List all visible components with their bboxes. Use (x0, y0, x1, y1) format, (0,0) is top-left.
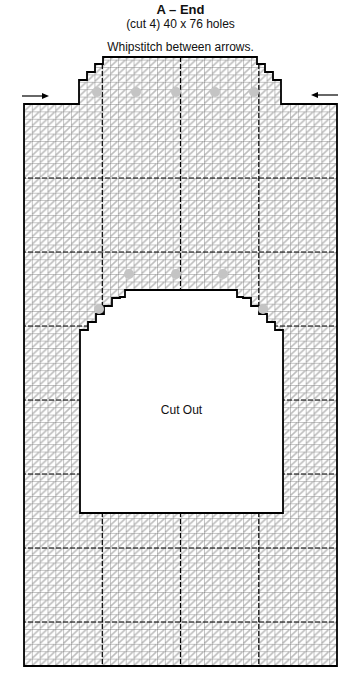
left-arrow-icon (311, 92, 338, 98)
canvas-grid-diagram (0, 0, 361, 690)
cutout-label: Cut Out (80, 403, 283, 417)
cutout-region (80, 290, 283, 513)
right-arrow-icon (22, 93, 49, 99)
